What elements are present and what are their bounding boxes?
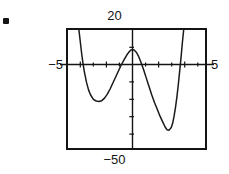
x-max-label: 5	[211, 58, 229, 71]
y-max-label: 20	[0, 9, 229, 22]
calculator-viewing-window	[66, 28, 207, 150]
graph-figure: 20 −50 −5 5	[0, 0, 229, 174]
x-min-label: −5	[30, 58, 63, 71]
y-min-label: −50	[0, 153, 229, 166]
